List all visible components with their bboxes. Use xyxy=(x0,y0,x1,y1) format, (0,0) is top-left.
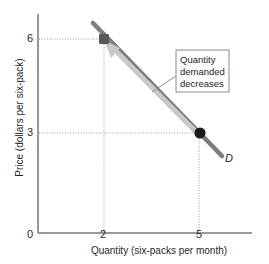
data-point-marker-a xyxy=(99,34,109,44)
y-tick-label-6: 6 xyxy=(27,33,33,44)
demand-curve-figure: 6 3 0 2 5 Price (dollars per six-pack) Q… xyxy=(0,0,269,264)
x-axis-title: Quantity (six-packs per month) xyxy=(64,245,254,256)
chart-canvas xyxy=(0,0,269,264)
data-point-marker-b xyxy=(194,127,205,138)
callout-text-line-1: Quantity xyxy=(180,54,228,66)
callout-text: Quantity demanded decreases xyxy=(180,54,228,90)
callout-text-line-3: decreases xyxy=(180,78,228,90)
x-tick-label-2: 2 xyxy=(100,229,106,240)
callout-leader-line xyxy=(152,76,176,92)
x-tick-label-5: 5 xyxy=(196,229,202,240)
y-tick-label-3: 3 xyxy=(27,127,33,138)
demand-curve-label: D xyxy=(225,152,233,164)
x-tick-label-0: 0 xyxy=(27,229,33,240)
y-axis-title: Price (dollars per six-pack) xyxy=(14,43,25,193)
callout-text-line-2: demanded xyxy=(180,66,228,78)
